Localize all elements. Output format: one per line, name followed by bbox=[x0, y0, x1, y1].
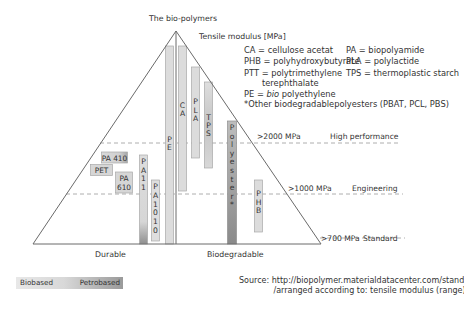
bar-label-ca: CA bbox=[180, 101, 186, 118]
bar-label-phb: PHB bbox=[256, 189, 262, 215]
label-biodegradable: Biodegradable bbox=[207, 250, 264, 259]
legend-phb: PHB = polyhydroxybutyrate bbox=[244, 56, 346, 67]
legend-pa: PA = biopolyamide bbox=[346, 45, 424, 56]
bar-label-pa410: PA 410 bbox=[102, 154, 128, 163]
axis-label: Tensile modulus [MPa] bbox=[198, 32, 286, 41]
bar-label-pet: PET bbox=[95, 166, 109, 175]
legend-tps: TPS = thermoplastic starch bbox=[346, 68, 459, 79]
bar-label-pa610: PA bbox=[119, 174, 128, 183]
gradient-label-biobased: Biobased bbox=[20, 278, 53, 287]
bar-label-pe: PE bbox=[167, 135, 172, 152]
biobased-petrobased-gradient: Biobased Petrobased bbox=[16, 277, 123, 289]
source-note: Source: http://biopolymer.materialdatace… bbox=[239, 276, 464, 296]
category-engineering: Engineering bbox=[352, 184, 398, 193]
label-durable: Durable bbox=[95, 250, 126, 259]
legend-other-polyesters: *Other biodegradablepolyesters (PBAT, PC… bbox=[244, 99, 459, 110]
bar-label-tps: TPS bbox=[205, 113, 211, 138]
legend-ptt: PTT = polytrimethylene bbox=[244, 68, 346, 79]
gradient-label-petrobased: Petrobased bbox=[80, 278, 120, 287]
threshold-2000: >2000 MPa bbox=[257, 132, 301, 141]
bar-label-pa610-line2: 610 bbox=[117, 183, 131, 192]
diagram-title: The bio-polymers bbox=[148, 14, 217, 23]
legend-ptt-line2: terephthalate bbox=[244, 78, 459, 89]
legend-pe: PE = bio polyethylene bbox=[244, 89, 459, 100]
category-high-performance: High performance bbox=[330, 132, 399, 141]
threshold-1000: >1000 MPa bbox=[288, 184, 332, 193]
abbreviation-legend: CA = cellulose acetat PA = biopolyamide … bbox=[244, 45, 459, 110]
threshold-700: >700 MPa bbox=[321, 234, 360, 243]
bar-ca bbox=[179, 46, 187, 191]
source-line-2: /arranged according to: tensile modulus … bbox=[239, 286, 464, 296]
legend-pla: PLA = polylactide bbox=[346, 56, 419, 67]
legend-ca: CA = cellulose acetat bbox=[244, 45, 346, 56]
source-line-1: Source: http://biopolymer.materialdatace… bbox=[239, 276, 464, 286]
category-standard: Standard bbox=[363, 234, 398, 243]
